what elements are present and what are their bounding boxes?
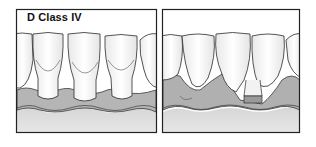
figure-title: D Class IV — [27, 11, 82, 23]
right-panel — [160, 10, 302, 132]
bone-left — [17, 107, 160, 132]
bone-right — [163, 107, 300, 132]
root-defect — [244, 96, 262, 103]
exposed-root — [244, 80, 262, 96]
left-panel — [12, 10, 160, 132]
